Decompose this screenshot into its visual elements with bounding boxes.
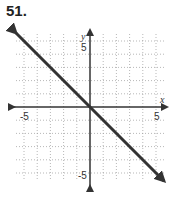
coordinate-graph: x y -5 5 5 -5 xyxy=(0,0,177,201)
x-tick-5: 5 xyxy=(154,111,160,122)
y-tick-5: 5 xyxy=(81,42,87,53)
x-axis-label: x xyxy=(159,94,165,105)
y-tick-neg5: -5 xyxy=(78,170,87,181)
y-axis-label: y xyxy=(80,31,86,42)
x-tick-neg5: -5 xyxy=(20,111,29,122)
